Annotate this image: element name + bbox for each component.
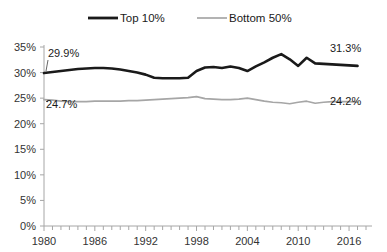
- x-axis-tick-label: 1980: [32, 235, 56, 247]
- annotation-bottom-end: 24.2%: [330, 95, 361, 107]
- y-axis-tick-label: 30%: [14, 67, 36, 79]
- x-axis-tick-label: 2010: [286, 235, 310, 247]
- line-chart: 0%5%10%15%20%25%30%35%198019861992199820…: [0, 0, 387, 252]
- series-line-bottom-50: [44, 97, 358, 104]
- y-axis-tick-label: 10%: [14, 169, 36, 181]
- annotation-top-start: 29.9%: [48, 47, 79, 59]
- y-axis-tick-label: 25%: [14, 92, 36, 104]
- x-axis-tick-label: 2016: [337, 235, 361, 247]
- legend-item-top-10-label: Top 10%: [120, 12, 165, 24]
- x-axis-tick-label: 1992: [133, 235, 157, 247]
- y-axis-tick-label: 0%: [20, 220, 36, 232]
- chart-container: 0%5%10%15%20%25%30%35%198019861992199820…: [0, 0, 387, 252]
- x-axis-tick-label: 1998: [184, 235, 208, 247]
- annotation-bottom-start: 24.7%: [46, 98, 77, 110]
- y-axis-tick-label: 20%: [14, 118, 36, 130]
- x-axis-tick-label: 1986: [83, 235, 107, 247]
- x-axis-tick-label: 2004: [235, 235, 259, 247]
- y-axis-tick-label: 15%: [14, 143, 36, 155]
- annotation-top-start-leader: [46, 60, 48, 71]
- y-axis-tick-label: 35%: [14, 41, 36, 53]
- annotation-top-end: 31.3%: [330, 42, 361, 54]
- legend-item-bottom-50-label: Bottom 50%: [229, 12, 292, 24]
- y-axis-tick-label: 5%: [20, 194, 36, 206]
- series-line-top-10: [44, 54, 358, 78]
